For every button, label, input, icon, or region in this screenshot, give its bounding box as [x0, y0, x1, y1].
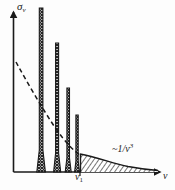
absorption-line-2: [54, 43, 61, 172]
tail-law-annotation: ~1/ν3: [112, 143, 133, 154]
continuum-region: [80, 154, 158, 172]
series-limit-tick-label: ν1: [75, 172, 83, 184]
tail-leader: [118, 153, 126, 160]
absorption-line-4: [75, 115, 80, 172]
dashed-envelope: [16, 62, 80, 155]
y-axis-label-subscript: ν: [22, 6, 25, 14]
tail-law-exponent: 3: [130, 142, 134, 150]
figure-canvas: [0, 0, 175, 190]
x-axis-label: ν: [163, 171, 167, 181]
absorption-line-1: [37, 8, 46, 172]
y-axis-label: σν: [17, 1, 26, 14]
series-limit-subscript: 1: [79, 176, 83, 184]
axis-group: [14, 12, 161, 176]
absorption-cross-section-figure: σν ν ν1 ~1/ν3: [0, 0, 175, 190]
envelope-path: [16, 62, 80, 155]
tail-law-prefix: ~1/: [112, 143, 125, 154]
absorption-line-group: [37, 8, 80, 172]
absorption-line-3: [65, 88, 71, 172]
